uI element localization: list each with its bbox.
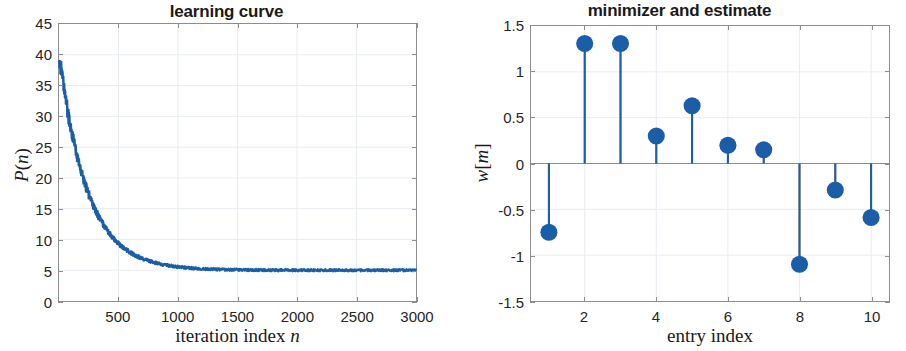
y-tick-mark-right — [530, 25, 535, 26]
y-axis-label-left-var: n — [11, 154, 32, 164]
x-tick-mark-right-top — [728, 25, 729, 30]
stem-marker-estimate — [540, 224, 557, 241]
y-tick-mark-left — [58, 116, 63, 117]
y-tick-mark-right-right — [885, 210, 890, 211]
stem-marker-estimate — [719, 137, 736, 154]
y-tick-label-right: 1 — [474, 63, 524, 80]
y-tick-label-right: -1 — [474, 247, 524, 264]
y-tick-mark-right-right — [885, 71, 890, 72]
x-tick-mark-left — [297, 297, 298, 302]
y-tick-label-right: 1.5 — [474, 17, 524, 34]
x-tick-mark-left-top — [118, 23, 119, 28]
plot-area-right — [530, 25, 890, 302]
y-tick-label-right: -0.5 — [474, 201, 524, 218]
y-tick-mark-right-right — [885, 302, 890, 303]
x-tick-mark-left-top — [357, 23, 358, 28]
x-axis-label-left-text: iteration index — [175, 325, 285, 346]
x-tick-mark-right — [656, 297, 657, 302]
y-tick-mark-left-right — [412, 178, 417, 179]
x-tick-mark-right-top — [800, 25, 801, 30]
x-tick-label-left: 2500 — [340, 308, 373, 325]
stem-marker-estimate — [791, 256, 808, 273]
y-tick-mark-left-right — [412, 85, 417, 86]
y-tick-mark-left — [58, 302, 63, 303]
x-tick-mark-left-top — [417, 23, 418, 28]
y-axis-label-right-open: [ — [471, 164, 492, 170]
x-axis-label-left-var: n — [290, 325, 300, 346]
x-tick-label-left: 2000 — [281, 308, 314, 325]
y-tick-mark-right-right — [885, 256, 890, 257]
y-tick-mark-left — [58, 85, 63, 86]
stem-marker-estimate — [755, 141, 772, 158]
x-tick-label-right: 10 — [864, 308, 881, 325]
y-tick-mark-left-right — [412, 302, 417, 303]
x-tick-label-right: 8 — [796, 308, 804, 325]
y-tick-mark-left — [58, 54, 63, 55]
y-tick-mark-left-right — [412, 240, 417, 241]
x-tick-label-left: 1000 — [161, 308, 194, 325]
y-tick-mark-right — [530, 164, 535, 165]
x-tick-mark-right-top — [584, 25, 585, 30]
y-tick-mark-right-right — [885, 25, 890, 26]
y-tick-mark-right-right — [885, 164, 890, 165]
y-tick-mark-right-right — [885, 117, 890, 118]
y-tick-label-left: 40 — [0, 46, 52, 63]
x-tick-label-left: 3000 — [400, 308, 433, 325]
y-tick-mark-left — [58, 240, 63, 241]
y-tick-mark-left — [58, 178, 63, 179]
stem-marker-estimate — [576, 35, 593, 52]
x-tick-mark-left — [118, 297, 119, 302]
y-axis-label-right: w[m] — [471, 123, 493, 203]
x-axis-label-right: entry index — [530, 325, 890, 347]
x-tick-mark-left — [417, 297, 418, 302]
y-tick-mark-left — [58, 23, 63, 24]
stem-marker-estimate — [648, 127, 665, 144]
y-axis-label-right-main: w — [471, 170, 492, 183]
x-tick-mark-right — [584, 297, 585, 302]
y-tick-label-left: 45 — [0, 15, 52, 32]
y-tick-mark-left-right — [412, 54, 417, 55]
x-tick-mark-left — [178, 297, 179, 302]
y-tick-mark-left — [58, 147, 63, 148]
x-tick-mark-left-top — [178, 23, 179, 28]
stem-marker-estimate — [684, 97, 701, 114]
learning-curve-svg — [59, 24, 416, 301]
y-tick-label-left: 10 — [0, 232, 52, 249]
y-tick-label-left: 0 — [0, 294, 52, 311]
stem-marker-estimate — [612, 35, 629, 52]
plot-area-left — [58, 23, 417, 302]
y-tick-mark-right — [530, 302, 535, 303]
x-tick-mark-right-top — [656, 25, 657, 30]
y-tick-mark-left-right — [412, 209, 417, 210]
y-axis-label-left: P(n) — [11, 125, 33, 205]
chart-title-left: learning curve — [0, 2, 453, 22]
x-tick-mark-right — [872, 297, 873, 302]
y-tick-mark-right — [530, 256, 535, 257]
y-tick-label-left: 35 — [0, 77, 52, 94]
x-tick-mark-right — [728, 297, 729, 302]
y-tick-mark-right — [530, 71, 535, 72]
y-tick-label-left: 30 — [0, 108, 52, 125]
x-axis-label-left: iteration index n — [58, 325, 417, 347]
y-tick-label-left: 5 — [0, 263, 52, 280]
y-tick-mark-left — [58, 271, 63, 272]
x-tick-label-left: 1500 — [221, 308, 254, 325]
x-tick-mark-right — [800, 297, 801, 302]
y-tick-mark-left-right — [412, 271, 417, 272]
y-tick-mark-right — [530, 117, 535, 118]
y-tick-label-right: -1.5 — [474, 294, 524, 311]
figure-canvas: learning curve 0510152025303540455001000… — [0, 0, 906, 351]
stem-marker-estimate — [827, 182, 844, 199]
minimizer-estimate-panel: minimizer and estimate -1.5-1-0.500.511.… — [453, 0, 906, 351]
y-tick-mark-left — [58, 209, 63, 210]
y-axis-label-left-open: ( — [11, 164, 32, 170]
y-tick-mark-right — [530, 210, 535, 211]
x-tick-mark-left — [357, 297, 358, 302]
y-axis-label-right-var: m — [471, 150, 492, 164]
x-tick-label-right: 4 — [652, 308, 660, 325]
x-tick-label-right: 6 — [724, 308, 732, 325]
stem-plot-svg — [531, 26, 889, 301]
x-tick-mark-left-top — [238, 23, 239, 28]
x-tick-label-left: 500 — [105, 308, 130, 325]
x-tick-mark-left — [238, 297, 239, 302]
